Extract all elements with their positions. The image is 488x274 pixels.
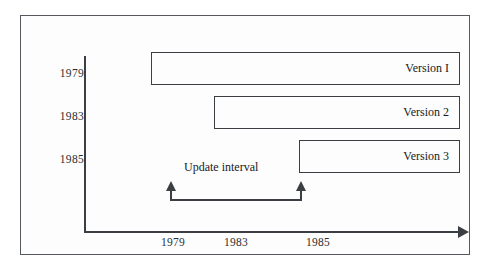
- y-axis-tick-label: 1985: [38, 153, 84, 165]
- up-arrow-icon: [166, 181, 176, 191]
- version-bar-label: Version 3: [403, 149, 459, 164]
- version-bar: Version 3: [299, 140, 460, 173]
- version-bar-label: Version 2: [403, 105, 459, 120]
- version-bar-label: Version I: [405, 61, 459, 76]
- update-interval-label: Update interval: [184, 160, 258, 175]
- version-bar: Version I: [151, 52, 460, 85]
- version-bar: Version 2: [214, 96, 460, 129]
- y-axis-line: [84, 56, 86, 232]
- x-axis-tick-label: 1985: [295, 236, 341, 248]
- y-axis-tick-label: 1983: [38, 110, 84, 122]
- x-axis-tick-label: 1979: [150, 236, 196, 248]
- right-arrow-icon: [458, 226, 469, 238]
- y-axis-tick-label: 1979: [38, 67, 84, 79]
- bracket-baseline: [170, 199, 302, 201]
- figure-frame: [20, 15, 470, 255]
- x-axis-line: [84, 231, 462, 233]
- timeline-diagram: 1979 1983 1985 1979 1983 1985 Version I …: [0, 0, 488, 274]
- update-interval-bracket: [170, 181, 302, 201]
- x-axis-tick-label: 1983: [213, 236, 259, 248]
- up-arrow-icon: [296, 181, 306, 191]
